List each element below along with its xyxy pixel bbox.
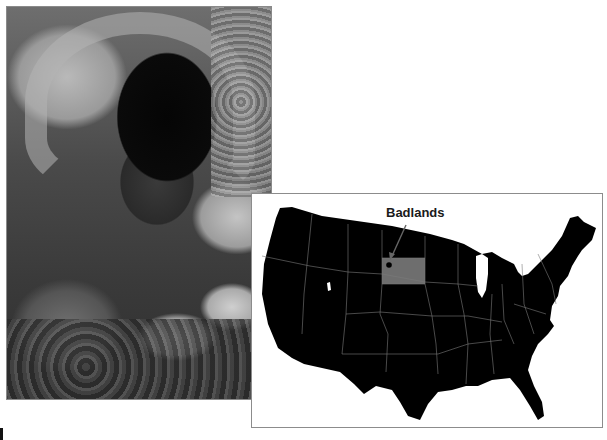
rock-ground [7,319,271,399]
us-landmass [262,207,596,420]
corner-mark [0,428,3,440]
badlands-marker [386,262,392,268]
gravel-background [211,7,271,197]
south-dakota-highlight [382,258,425,284]
us-map [252,194,604,429]
badlands-label: Badlands [386,205,445,220]
fossil-hunter-photo [6,6,272,400]
us-map-panel: Badlands [251,193,603,428]
